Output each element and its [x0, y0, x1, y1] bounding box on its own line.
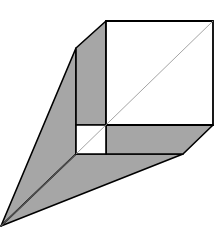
left-band	[76, 21, 106, 125]
bottom-band	[106, 125, 213, 154]
folded-square-diagram	[0, 0, 221, 241]
